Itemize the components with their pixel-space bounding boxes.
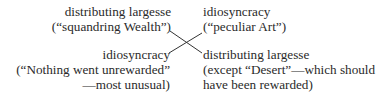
chiasmus-cross (0, 0, 392, 97)
